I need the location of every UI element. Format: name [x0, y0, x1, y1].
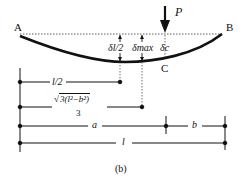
delta-c-label: δc	[160, 43, 169, 53]
point-c-label: C	[161, 63, 168, 74]
load-arrow-icon	[160, 6, 170, 33]
point-a-label: A	[14, 22, 22, 33]
point-b-label: B	[226, 22, 233, 33]
span-l-label: l	[122, 137, 125, 147]
max-location-formula: √3(l²−b²)	[54, 94, 90, 104]
beam-deflection-diagram	[0, 0, 248, 185]
delta-half-label: δl/2	[108, 43, 123, 53]
figure-caption: (b)	[115, 164, 127, 174]
segment-b-label: b	[192, 120, 197, 130]
max-location-denominator: 3	[76, 108, 81, 118]
max-location-numerator: 3(l²−b²)	[59, 93, 90, 104]
delta-max-label: δmax	[132, 43, 153, 53]
segment-a-label: a	[92, 120, 97, 130]
load-p-label: P	[175, 6, 182, 18]
half-span-label: l/2	[52, 77, 63, 87]
